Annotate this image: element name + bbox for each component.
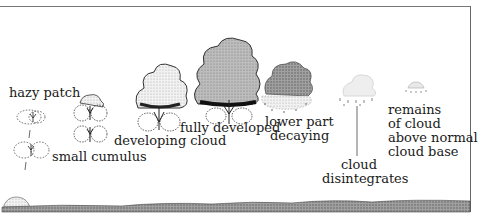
small-cumulus-icon bbox=[74, 95, 107, 142]
label-hazy-patch: hazy patch bbox=[9, 85, 80, 100]
label-small-cumulus: small cumulus bbox=[52, 149, 147, 164]
fully-developed-icon bbox=[194, 38, 260, 124]
cloud-disintegrates-icon bbox=[340, 75, 376, 156]
hazy-patch-icon bbox=[14, 110, 49, 170]
label-of-cloud: of cloud bbox=[388, 116, 441, 131]
label-above-normal: above normal bbox=[388, 130, 478, 145]
lower-part-decaying-icon bbox=[262, 62, 313, 113]
label-cloud: cloud bbox=[341, 157, 377, 172]
cloud-lifecycle-diagram: hazy patch small cumulus developing clou… bbox=[0, 0, 482, 217]
label-developing-cloud: developing cloud bbox=[114, 133, 226, 148]
label-remains: remains bbox=[388, 102, 441, 117]
label-decaying: decaying bbox=[270, 128, 329, 143]
label-lower-part: lower part bbox=[265, 114, 334, 129]
label-disintegrates: disintegrates bbox=[322, 171, 408, 186]
remains-of-cloud-icon bbox=[406, 82, 426, 93]
ground-strip bbox=[2, 197, 470, 212]
label-cloud-base: cloud base bbox=[388, 144, 459, 159]
